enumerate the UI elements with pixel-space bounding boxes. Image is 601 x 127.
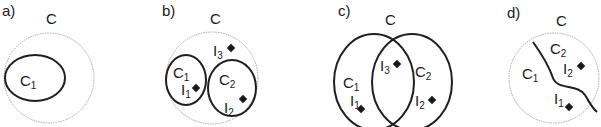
set-label-c2-b: C2: [219, 71, 236, 90]
item-label-i2-d: I2: [563, 60, 573, 79]
item-label-i3-c: I3: [380, 57, 390, 76]
set-c1-ellipse-a: [5, 55, 65, 101]
panel-label-d: d): [507, 4, 520, 21]
item-point-i3-b: [227, 44, 235, 52]
item-point-i2-b: [239, 95, 247, 103]
universe-label-d: C: [556, 12, 567, 29]
panel-d: d) C C1 C2 I2 I1: [507, 4, 599, 123]
item-point-i3-c: [393, 60, 401, 68]
panel-label-a: a): [2, 2, 15, 19]
universe-label-a: C: [46, 10, 57, 27]
set-label-c1-a: C1: [20, 72, 37, 91]
item-point-i1-b: [192, 84, 200, 92]
panel-b: b) C C1 C2 I1 I2 I3: [162, 2, 258, 124]
panel-c: c) C C1 C2 I1 I2 I3: [334, 2, 452, 127]
item-label-i3-b: I3: [213, 42, 223, 61]
universe-label-c: C: [385, 11, 396, 28]
set-label-c2-d: C2: [550, 40, 567, 59]
panel-label-c: c): [338, 2, 351, 19]
item-point-i2-c: [428, 96, 436, 104]
item-point-i2-d: [577, 62, 585, 70]
item-label-i1-d: I1: [554, 90, 564, 109]
panel-label-b: b): [162, 2, 175, 19]
universe-label-b: C: [210, 10, 221, 27]
set-c2-ellipse-c: [372, 34, 452, 127]
set-label-c1-d: C1: [522, 65, 539, 84]
item-label-i2-c: I2: [415, 92, 425, 111]
set-label-c1-c: C1: [343, 74, 360, 93]
panel-a: a) C C1: [2, 2, 94, 123]
set-label-c2-c: C2: [415, 63, 432, 82]
item-point-i1-d: [565, 103, 573, 111]
item-label-i2-b: I2: [224, 99, 234, 118]
item-label-i1-b: I1: [181, 81, 191, 100]
universe-circle-a: [4, 33, 94, 123]
